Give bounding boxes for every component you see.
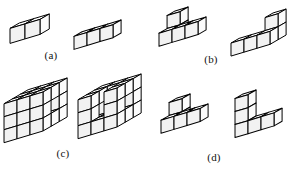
cube [100, 20, 121, 42]
shape-c-1 [2, 76, 69, 145]
panel-a [0, 0, 151, 70]
shape-a-1 [8, 12, 51, 45]
shape-b-1-container [157, 5, 208, 48]
shape-c-2-container [76, 72, 143, 141]
panel-label-b: (b) [200, 54, 222, 65]
shape-d-1 [159, 92, 210, 135]
shape-d-1-container [159, 92, 210, 135]
panel-label-c: (c) [52, 148, 74, 159]
shape-a-2-container [72, 18, 123, 51]
shape-a-2 [72, 18, 123, 51]
cube [261, 108, 282, 130]
panel-d [151, 70, 302, 180]
shape-b-2 [229, 7, 288, 58]
panel-b [151, 0, 302, 70]
shape-b-1 [157, 5, 208, 48]
shape-d-2-container [233, 88, 284, 140]
shape-a-1-container [8, 12, 51, 45]
shape-b-2-container [229, 7, 288, 58]
shape-c-1-container [2, 76, 69, 145]
panel-c [0, 70, 151, 180]
figure-canvas: (a)(b)(c)(d) [0, 0, 302, 180]
shape-c-2 [76, 72, 143, 141]
panel-label-d: (d) [203, 152, 225, 163]
shape-d-2 [233, 88, 284, 140]
panel-label-a: (a) [40, 50, 62, 61]
cube [25, 14, 49, 39]
cube [257, 27, 278, 49]
